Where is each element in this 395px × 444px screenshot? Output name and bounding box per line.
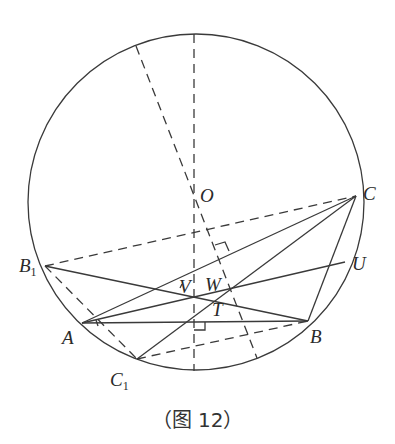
label-O: O — [200, 186, 214, 205]
label-B: B — [310, 327, 322, 346]
right-angle-mark-AB — [194, 322, 205, 330]
segment-B1-B — [45, 266, 308, 321]
dashed-B1-C1 — [45, 266, 137, 359]
label-C1: C1 — [110, 370, 129, 392]
right-angle-mark-AC — [215, 242, 229, 251]
dashed-oblique-line — [136, 46, 257, 358]
label-A: A — [62, 328, 74, 347]
label-C: C — [363, 184, 376, 203]
label-W: W — [205, 275, 221, 294]
geometry-figure — [0, 0, 395, 444]
label-U: U — [352, 254, 366, 273]
segment-A-B — [82, 321, 308, 323]
label-T: T — [212, 300, 223, 319]
figure-caption: （图 12） — [0, 404, 395, 433]
label-B1: B1 — [19, 256, 37, 278]
label-V: V — [179, 277, 191, 296]
